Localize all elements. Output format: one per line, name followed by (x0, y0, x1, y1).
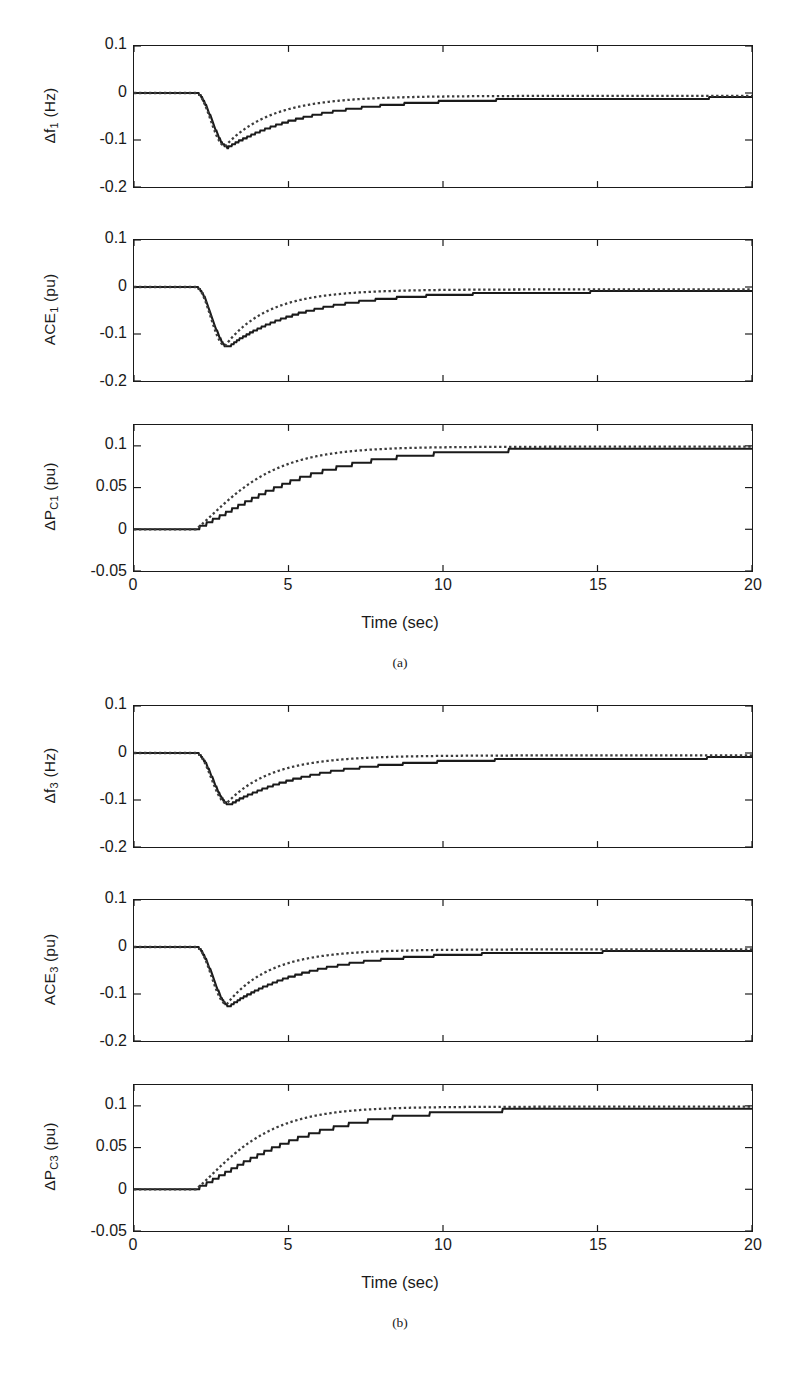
ytick-ace3-3: -0.2 (65, 1032, 127, 1050)
xtick-b-2: 10 (423, 1236, 463, 1254)
ytick-dpc3-2: 0 (65, 1180, 127, 1198)
series-df3-solid (134, 753, 752, 804)
ylabel-unit-dpc3: (pu) (41, 1122, 58, 1155)
ytick-df3-3: -0.2 (65, 838, 127, 856)
ytick-dpc3-0: 0.1 (65, 1095, 127, 1113)
xlabel-b: Time (sec) (0, 1273, 800, 1292)
curve-canvas-dpc3 (134, 1085, 752, 1231)
curve-canvas-df3 (134, 706, 752, 847)
ylabel-subscript-df3: 3 (48, 782, 60, 788)
ytick-ace3-0: 0.1 (65, 889, 127, 907)
figure-root: 0.10-0.1-0.2Δf1 (Hz)0.10-0.1-0.2ACE1 (pu… (0, 0, 800, 1382)
ylabel-ace3: ACE3 (pu) (41, 898, 60, 1041)
ylabel-subscript-dpc3: C3 (48, 1155, 60, 1169)
xtick-b-4: 20 (733, 1236, 773, 1254)
ylabel-main-ace3: ACE (41, 972, 58, 1004)
series-ace3-solid (134, 947, 752, 1006)
plot-area-ace3 (133, 899, 753, 1042)
ylabel-dpc3: ΔPC3 (pu) (41, 1083, 60, 1231)
tick-marks-ace3 (134, 900, 752, 1041)
tick-marks-df3 (134, 706, 752, 847)
ylabel-main-df3: Δf (41, 788, 58, 803)
panel-caption-b: (b) (0, 1315, 800, 1331)
plot-area-df3 (133, 705, 753, 848)
xtick-b-0: 0 (113, 1236, 153, 1254)
ytick-df3-1: 0 (65, 743, 127, 761)
ylabel-unit-ace3: (pu) (41, 933, 58, 966)
xtick-b-3: 15 (578, 1236, 618, 1254)
ytick-df3-2: -0.1 (65, 790, 127, 808)
panel-b: 0.10-0.1-0.2Δf3 (Hz)0.10-0.1-0.2ACE3 (pu… (0, 0, 800, 1382)
ylabel-df3: Δf3 (Hz) (41, 704, 60, 847)
plot-area-dpc3 (133, 1084, 753, 1232)
ytick-df3-0: 0.1 (65, 695, 127, 713)
ylabel-main-dpc3: ΔP (41, 1170, 58, 1191)
ylabel-unit-df3: (Hz) (41, 747, 58, 782)
xtick-b-1: 5 (268, 1236, 308, 1254)
ytick-dpc3-1: 0.05 (65, 1137, 127, 1155)
ytick-ace3-2: -0.1 (65, 984, 127, 1002)
curve-canvas-ace3 (134, 900, 752, 1041)
series-dpc3-solid (134, 1109, 752, 1190)
ytick-ace3-1: 0 (65, 937, 127, 955)
series-dpc3-dotted (134, 1107, 752, 1190)
